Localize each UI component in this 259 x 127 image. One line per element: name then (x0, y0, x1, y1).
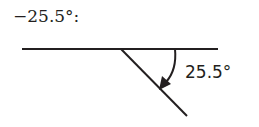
rotation-arc (166, 49, 175, 82)
angle-label: 25.5° (185, 62, 231, 82)
rotated-line (121, 49, 187, 116)
